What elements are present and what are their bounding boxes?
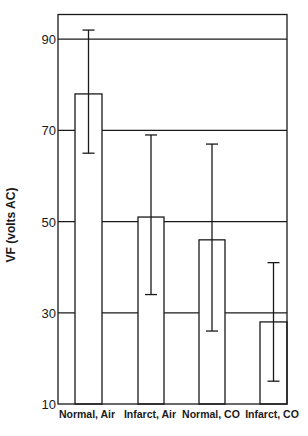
x-label-2: Infarct, Air — [124, 408, 176, 420]
y-tick-70: 70 — [42, 123, 56, 138]
x-axis-labels: Normal, AirInfarct, AirNormal, COInfarct… — [59, 408, 299, 420]
bars — [75, 94, 287, 404]
y-tick-30: 30 — [42, 306, 56, 321]
y-tick-50: 50 — [42, 215, 56, 230]
y-tick-10: 10 — [42, 397, 56, 412]
bar-chart: 1030507090 Normal, AirInfarct, AirNormal… — [0, 0, 308, 436]
y-axis-label: VF (volts AC) — [4, 188, 18, 263]
x-label-1: Normal, Air — [59, 408, 115, 420]
x-label-3: Normal, CO — [182, 408, 240, 420]
y-axis-ticks: 1030507090 — [42, 32, 56, 412]
error-bars — [83, 30, 280, 381]
x-label-4: Infarct, CO — [245, 408, 299, 420]
y-tick-90: 90 — [42, 32, 56, 47]
